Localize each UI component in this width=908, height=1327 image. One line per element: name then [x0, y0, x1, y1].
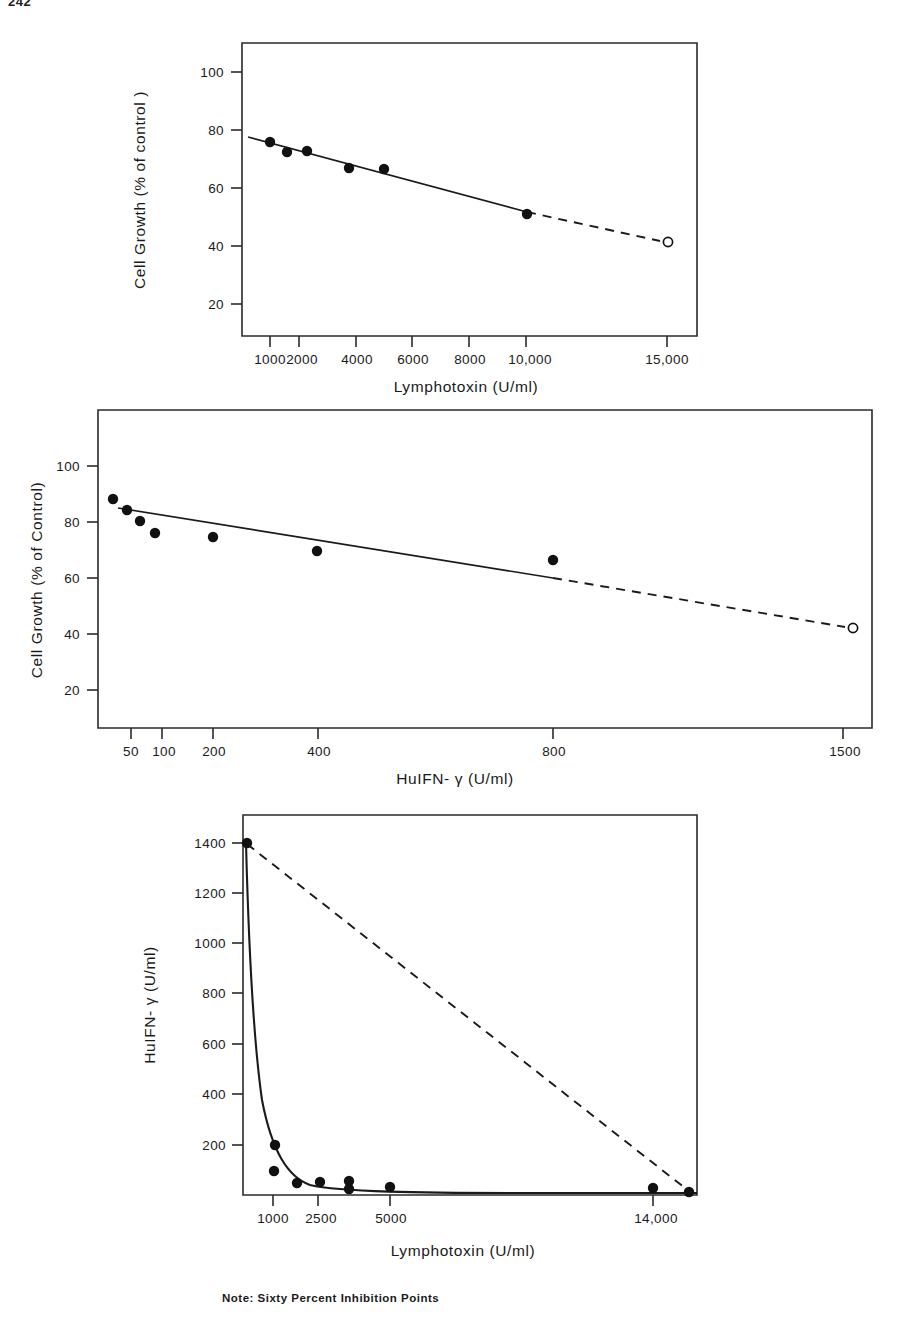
data-point-open [848, 623, 857, 632]
data-point [315, 1177, 325, 1187]
data-point [344, 163, 354, 173]
x-tick-label: 1000 [254, 352, 286, 367]
y-tick-label: 1000 [194, 936, 226, 951]
data-point [292, 1178, 302, 1188]
y-tick-label: 80 [208, 123, 224, 138]
plot-frame [98, 410, 872, 728]
data-point [122, 505, 132, 515]
x-axis-label: Lymphotoxin (U/ml) [391, 1242, 536, 1259]
y-axis-tick-labels: 100 80 60 40 20 [56, 459, 80, 698]
data-point [269, 1166, 279, 1176]
y-tick-label: 60 [64, 571, 80, 586]
y-tick-label: 100 [200, 65, 224, 80]
x-axis-tick-labels: 50 100 200 400 800 1500 [123, 744, 861, 759]
x-axis-ticks [270, 336, 667, 347]
data-point [265, 137, 275, 147]
data-point [242, 838, 252, 848]
x-tick-label: 1500 [829, 744, 861, 759]
data-points [108, 494, 858, 633]
data-point [522, 209, 532, 219]
y-axis-ticks [231, 72, 242, 304]
x-tick-label: 200 [202, 744, 226, 759]
data-point [379, 164, 389, 174]
plot-frame [243, 815, 697, 1195]
y-tick-label: 20 [64, 683, 80, 698]
y-tick-label: 20 [208, 297, 224, 312]
additivity-line [247, 844, 690, 1192]
x-tick-label: 1000 [257, 1211, 289, 1226]
data-point [302, 146, 312, 156]
x-tick-label: 4000 [341, 352, 373, 367]
x-axis-label: HuIFN- γ (U/ml) [396, 770, 514, 787]
figure-panel-3: 1400 1200 1000 800 600 400 200 1000 2500… [0, 800, 908, 1327]
y-axis-ticks [232, 843, 243, 1145]
x-axis-tick-labels: 1000 2500 5000 14,000 [257, 1211, 678, 1226]
y-tick-label: 1200 [194, 886, 226, 901]
y-axis-label: Cell Growth (% of control ) [131, 91, 148, 289]
x-axis-tick-labels: 1000 2000 4000 6000 8000 10,000 15,000 [254, 352, 689, 367]
y-tick-label: 400 [202, 1087, 226, 1102]
y-tick-label: 100 [56, 459, 80, 474]
x-tick-label: 2000 [286, 352, 318, 367]
x-tick-label: 2500 [305, 1211, 337, 1226]
extrapolation-line [553, 578, 845, 627]
data-point [270, 1140, 280, 1150]
x-tick-label: 6000 [397, 352, 429, 367]
extrapolation-line [527, 212, 660, 241]
x-tick-label: 100 [152, 744, 176, 759]
data-point [108, 494, 118, 504]
y-tick-label: 200 [202, 1138, 226, 1153]
figure-panel-1: 100 80 60 40 20 1000 2000 4000 6000 8000… [0, 20, 908, 395]
x-axis-label: Lymphotoxin (U/ml) [394, 378, 539, 395]
y-tick-label: 80 [64, 515, 80, 530]
data-point [344, 1184, 354, 1194]
figure-note: Note: Sixty Percent Inhibition Points [222, 1292, 439, 1304]
regression-line [118, 508, 553, 578]
data-point [548, 555, 558, 565]
y-tick-label: 40 [64, 627, 80, 642]
panel-1-plot: 100 80 60 40 20 1000 2000 4000 6000 8000… [0, 20, 908, 395]
y-tick-label: 40 [208, 239, 224, 254]
figure-panel-2: 100 80 60 40 20 50 100 200 400 800 1500 [0, 398, 908, 788]
panel-2-plot: 100 80 60 40 20 50 100 200 400 800 1500 [0, 398, 908, 788]
y-tick-label: 800 [202, 986, 226, 1001]
data-point [135, 516, 145, 526]
data-point [684, 1187, 694, 1197]
data-point [282, 147, 292, 157]
data-point-open [663, 237, 672, 246]
x-axis-ticks [131, 728, 843, 739]
x-tick-label: 800 [542, 744, 566, 759]
y-tick-label: 60 [208, 181, 224, 196]
page-number: 242 [8, 0, 31, 9]
data-point [648, 1183, 658, 1193]
y-axis-tick-labels: 100 80 60 40 20 [200, 65, 224, 312]
panel-3-plot: 1400 1200 1000 800 600 400 200 1000 2500… [0, 800, 908, 1327]
y-tick-label: 600 [202, 1037, 226, 1052]
x-axis-ticks [273, 1195, 653, 1206]
data-point [150, 528, 160, 538]
x-tick-label: 14,000 [634, 1211, 678, 1226]
x-tick-label: 8000 [454, 352, 486, 367]
x-tick-label: 10,000 [508, 352, 552, 367]
y-tick-label: 1400 [194, 836, 226, 851]
data-point [312, 546, 322, 556]
x-tick-label: 50 [123, 744, 139, 759]
y-axis-label: Cell Growth (% of Control) [28, 482, 45, 678]
x-tick-label: 5000 [375, 1211, 407, 1226]
x-tick-label: 400 [307, 744, 331, 759]
plot-frame [242, 43, 697, 336]
data-point [385, 1182, 395, 1192]
x-tick-label: 15,000 [645, 352, 689, 367]
y-axis-tick-labels: 1400 1200 1000 800 600 400 200 [194, 836, 226, 1153]
y-axis-label: HuIFN- γ (U/ml) [141, 946, 158, 1064]
data-point [208, 532, 218, 542]
y-axis-ticks [87, 466, 98, 690]
